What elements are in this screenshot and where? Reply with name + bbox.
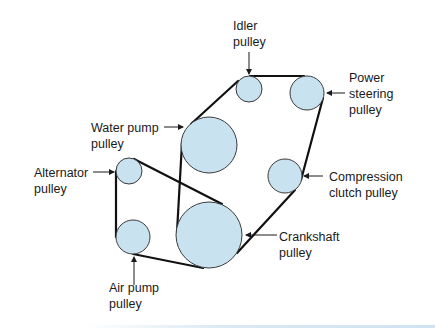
power-steering-pulley xyxy=(290,76,324,110)
air-pump-pulley xyxy=(116,220,150,254)
crankshaft-label: Crankshaft pulley xyxy=(279,230,343,260)
belt-diagram: Idler pulley Power steering pulley Water… xyxy=(0,0,435,328)
idler-label: Idler pulley xyxy=(233,19,266,49)
water-pump-pulley xyxy=(181,117,237,173)
power-steering-label: Power steering pulley xyxy=(349,71,397,117)
compression-clutch-label: Compression clutch pulley xyxy=(329,170,406,200)
water-pump-label: Water pump pulley xyxy=(91,121,162,151)
compression-clutch-pulley xyxy=(268,159,302,193)
crankshaft-pulley xyxy=(176,202,242,268)
alternator-pulley xyxy=(116,158,142,184)
idler-pulley xyxy=(236,76,262,102)
air-pump-label: Air pump pulley xyxy=(109,281,163,311)
alternator-label: Alternator pulley xyxy=(34,166,92,196)
